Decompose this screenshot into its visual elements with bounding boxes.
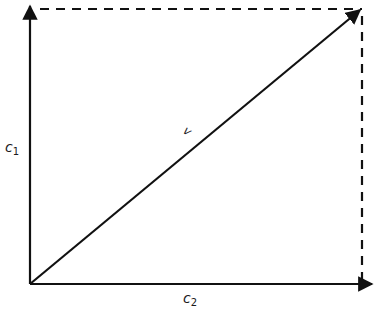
vector-diagram — [0, 0, 374, 309]
c2-label-subscript: 2 — [191, 297, 197, 308]
vector-v-arrow — [30, 10, 360, 284]
c1-axis-label: c1 — [5, 140, 19, 157]
c1-label-base: c — [5, 139, 13, 155]
c2-label-base: c — [183, 290, 191, 306]
c1-label-subscript: 1 — [13, 146, 19, 157]
c2-axis-label: c2 — [183, 291, 197, 308]
